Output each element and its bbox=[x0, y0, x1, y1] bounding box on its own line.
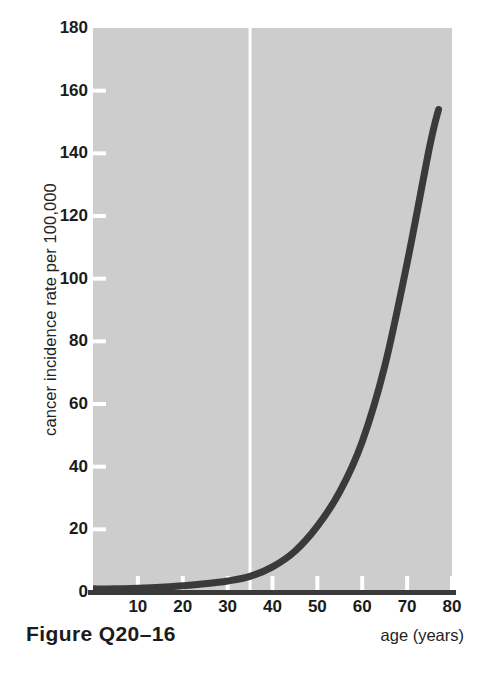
y-axis-tick-label: 40 bbox=[28, 457, 88, 477]
y-axis-tick-label: 120 bbox=[28, 206, 88, 226]
figure-caption: Figure Q20–16 bbox=[26, 622, 176, 646]
y-axis-tick-label: 80 bbox=[28, 331, 88, 351]
incidence-curve bbox=[93, 109, 439, 588]
x-axis-line bbox=[88, 590, 456, 595]
plot-area bbox=[93, 28, 452, 592]
y-axis-tick-label: 140 bbox=[28, 143, 88, 163]
y-axis-tick-label: 160 bbox=[28, 81, 88, 101]
y-axis-tick-label: 0 bbox=[28, 582, 88, 602]
plot-canvas bbox=[93, 28, 452, 592]
x-axis-title: age (years) bbox=[381, 626, 464, 645]
x-axis-tick-label: 80 bbox=[422, 597, 482, 617]
y-axis-title: cancer incidence rate per 100,000 bbox=[41, 120, 60, 500]
y-axis-tick-label: 60 bbox=[28, 394, 88, 414]
y-axis-tick-label: 20 bbox=[28, 519, 88, 539]
figure-root: cancer incidence rate per 100,000 020406… bbox=[0, 0, 484, 677]
y-axis-tick-label: 180 bbox=[28, 18, 88, 38]
y-axis-tick-marks bbox=[93, 91, 106, 530]
y-axis-tick-label: 100 bbox=[28, 269, 88, 289]
